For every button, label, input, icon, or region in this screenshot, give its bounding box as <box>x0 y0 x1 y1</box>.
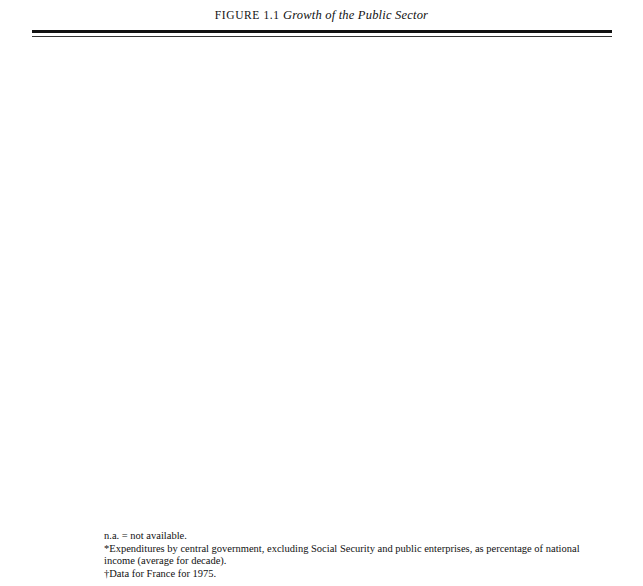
header-rule-thick <box>32 30 612 33</box>
footnote-star: *Expenditures by central government, exc… <box>104 543 604 568</box>
figure-page: FIGURE 1.1 Growth of the Public Sector n… <box>0 0 643 586</box>
figure-number: FIGURE 1.1 <box>215 9 280 21</box>
figure-name: Growth of the Public Sector <box>283 8 428 22</box>
footnote-na: n.a. = not available. <box>104 530 604 543</box>
figure-title: FIGURE 1.1 Growth of the Public Sector <box>0 8 643 23</box>
header-rule-thin <box>32 36 612 37</box>
footnote-dagger: †Data for France for 1975. <box>104 568 604 581</box>
footnotes: n.a. = not available. *Expenditures by c… <box>104 530 604 580</box>
